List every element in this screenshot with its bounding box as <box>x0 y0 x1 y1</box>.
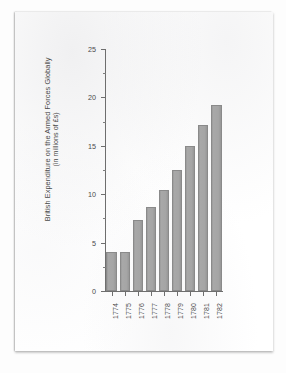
x-axis-tick-label: 1780 <box>190 303 197 319</box>
bar <box>185 146 195 291</box>
bar <box>159 190 169 291</box>
y-axis-minor-tick <box>103 73 107 74</box>
y-axis-tick-label: 0 <box>92 287 96 296</box>
x-axis-tick-label: 1775 <box>125 303 132 319</box>
x-axis-tick: 1778 <box>164 292 165 296</box>
y-axis-minor-tick <box>103 218 107 219</box>
x-axis-tick: 1774 <box>112 292 113 296</box>
y-axis-tick: 0 <box>101 291 106 292</box>
x-axis-tick-label: 1781 <box>203 303 210 319</box>
x-axis-tick-label: 1774 <box>112 303 119 319</box>
x-axis-tick: 1779 <box>177 292 178 296</box>
x-axis-tick: 1781 <box>203 292 204 296</box>
bar-chart: British Expenditure on the Armed Forces … <box>15 12 273 351</box>
x-axis-tick: 1780 <box>190 292 191 296</box>
y-axis-tick-label: 20 <box>88 93 96 102</box>
x-axis-tick-label: 1779 <box>177 303 184 319</box>
y-axis-minor-tick <box>103 170 107 171</box>
bar <box>146 207 156 291</box>
x-axis-tick-label: 1782 <box>216 303 223 319</box>
y-axis-tick-label: 15 <box>88 141 96 150</box>
x-axis-tick: 1782 <box>216 292 217 296</box>
y-axis-tick: 15 <box>101 146 106 147</box>
y-axis-title-line-2: (in millions of £s) <box>52 39 61 239</box>
y-axis-tick-label: 25 <box>88 45 96 54</box>
scan-surface: British Expenditure on the Armed Forces … <box>0 0 286 373</box>
y-axis-tick: 25 <box>101 49 106 50</box>
bar <box>133 220 143 291</box>
x-axis-tick-label: 1778 <box>164 303 171 319</box>
y-axis-minor-tick <box>103 122 107 123</box>
bar <box>172 170 182 291</box>
x-axis-tick: 1777 <box>151 292 152 296</box>
paper-sheet: British Expenditure on the Armed Forces … <box>15 12 273 351</box>
bar <box>106 252 116 291</box>
plot-area: 0510152025 17741775177617771778177917801… <box>105 50 223 292</box>
y-axis-title: British Expenditure on the Armed Forces … <box>43 39 62 239</box>
y-axis-tick: 20 <box>101 97 106 98</box>
y-axis-title-line-1: British Expenditure on the Armed Forces … <box>43 39 52 239</box>
x-axis-tick-label: 1777 <box>151 303 158 319</box>
bar <box>120 252 130 291</box>
x-axis-tick-label: 1776 <box>138 303 145 319</box>
y-axis-tick: 5 <box>101 243 106 244</box>
y-axis-tick-label: 5 <box>92 238 96 247</box>
bar <box>198 125 208 291</box>
y-axis-tick-label: 10 <box>88 190 96 199</box>
x-axis-tick: 1775 <box>125 292 126 296</box>
x-axis-tick: 1776 <box>138 292 139 296</box>
y-axis-tick: 10 <box>101 194 106 195</box>
bar <box>211 105 221 291</box>
